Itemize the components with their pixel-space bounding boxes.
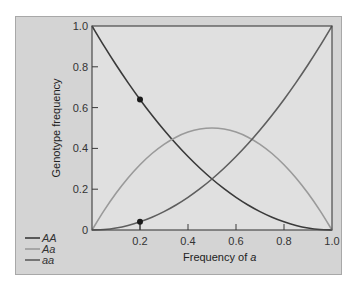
x-axis-title-var: a (250, 251, 256, 263)
y-tick-label: 0.2 (73, 183, 88, 195)
y-tick-label: 0 (82, 224, 88, 236)
marker-AA (137, 96, 143, 102)
x-axis-title: Frequency of a (183, 251, 256, 263)
x-tick-label: 0.6 (228, 235, 243, 247)
y-tick-label: 0.8 (73, 61, 88, 73)
x-tick-label: 0.8 (276, 235, 291, 247)
y-tick-label: 1.0 (73, 20, 88, 32)
legend-label-aa: aa (42, 254, 54, 266)
x-tick-label: 0.2 (132, 235, 147, 247)
genotype-frequency-chart: 00.20.40.60.81.0 0.20.40.60.81.0 Genotyp… (0, 0, 354, 289)
y-tick-label: 0.6 (73, 102, 88, 114)
y-tick-label: 0.4 (73, 142, 88, 154)
x-tick-label: 1.0 (324, 235, 339, 247)
x-axis-title-prefix: Frequency of (183, 251, 250, 263)
x-tick-label: 0.4 (180, 235, 195, 247)
y-axis-title: Genotype frequency (50, 78, 62, 178)
legend: AAAaaa (25, 232, 57, 266)
marker-aa (137, 219, 143, 225)
